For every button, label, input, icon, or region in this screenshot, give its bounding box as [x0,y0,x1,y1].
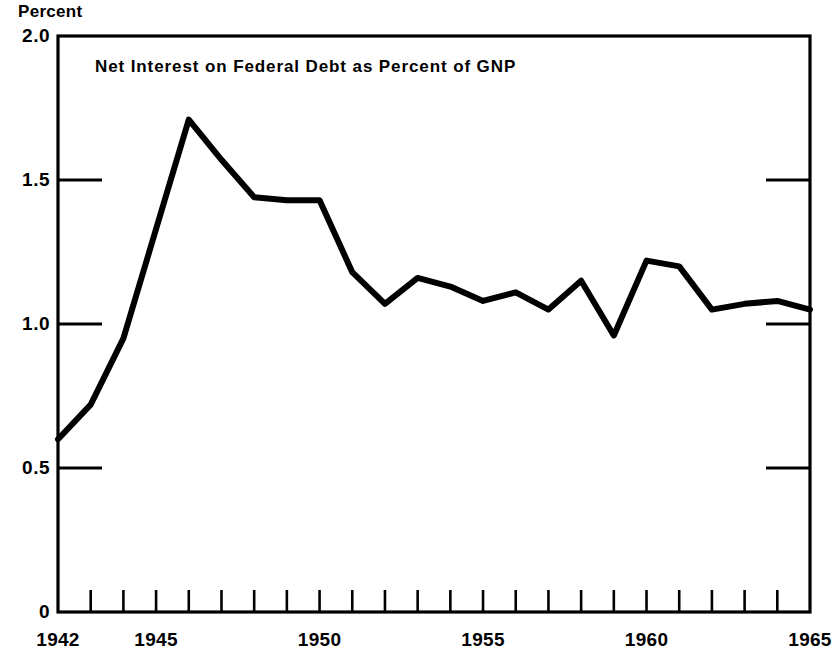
chart-title: Net Interest on Federal Debt as Percent … [95,57,516,77]
y-axis-tick-labels: 2.01.51.00.50 [0,0,50,668]
x-axis-tick-label: 1955 [461,630,504,649]
x-axis-tick-label: 1945 [134,630,177,649]
y-axis-ticks [58,180,810,468]
chart-container: Percent Net Interest on Federal Debt as … [0,0,834,668]
plot-area [0,0,834,668]
y-axis-tick-label: 1.0 [22,314,50,333]
y-axis-tick-label: 1.5 [22,170,50,189]
data-series-line [58,120,810,440]
y-axis-tick-label: 0.5 [22,458,50,477]
x-axis-tick-label: 1965 [788,630,831,649]
y-axis-tick-label: 2.0 [22,26,50,45]
x-axis-tick-label: 1950 [298,630,341,649]
y-axis-tick-label: 0 [39,602,50,621]
plot-frame [58,36,810,612]
x-axis-tick-label: 1960 [625,630,668,649]
x-axis-tick-label: 1942 [36,630,79,649]
x-axis-ticks [91,590,778,612]
